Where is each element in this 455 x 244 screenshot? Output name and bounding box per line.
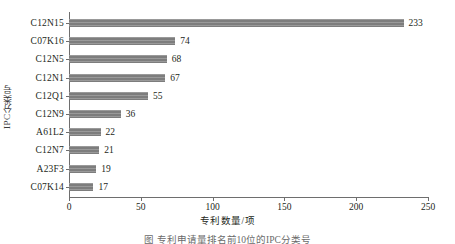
category-label: C07K16 [31,32,64,50]
bar-row: C12N721 [69,141,428,159]
category-label: A23F3 [37,160,64,178]
category-label: C12N7 [36,141,64,159]
x-axis-tick [356,197,357,201]
y-axis-title: IPC分类号 [2,62,18,152]
bar-value-label: 36 [126,105,136,123]
x-axis-tick-label: 150 [277,202,291,212]
x-axis-line [69,197,429,198]
x-axis-tick-label: 0 [67,202,72,212]
chart-figure: IPC分类号 C12N15233C07K1674C12N568C12N167C1… [0,0,455,244]
bar-row: C12N167 [69,69,428,87]
category-label: C07K14 [31,178,64,196]
bar-row: C12N568 [69,50,428,68]
bar-row: C12N15233 [69,14,428,32]
bar-row: A61L222 [69,123,428,141]
category-label: A61L2 [36,123,64,141]
bar-value-label: 68 [172,50,182,68]
bar [69,128,101,136]
bar-value-label: 67 [170,69,180,87]
bar-row: A23F319 [69,160,428,178]
x-axis-tick [141,197,142,201]
bar-value-label: 74 [180,32,190,50]
bar-value-label: 22 [106,123,116,141]
bar [69,92,148,100]
bar-row: C07K1674 [69,32,428,50]
bar-value-label: 19 [101,160,111,178]
bar [69,19,404,27]
bar [69,55,167,63]
x-axis-title: 专利数量/项 [0,213,455,227]
x-axis-tick-label: 50 [136,202,146,212]
bar-row: C12Q155 [69,87,428,105]
bar-value-label: 233 [409,14,423,32]
category-label: C12N9 [36,105,64,123]
x-axis-tick-label: 100 [205,202,219,212]
bar-value-label: 55 [153,87,163,105]
bar-row: C07K1417 [69,178,428,196]
bar [69,165,96,173]
bar [69,146,99,154]
bar-row: C12N936 [69,105,428,123]
x-axis-tick [428,197,429,201]
x-axis-tick [213,197,214,201]
bar [69,37,175,45]
bar [69,110,121,118]
x-axis-tick [284,197,285,201]
category-label: C12N5 [36,50,64,68]
bar [69,183,93,191]
category-label: C12N1 [36,69,64,87]
figure-caption: 图 专利申请量排名前10位的IPC分类号 [0,232,455,244]
x-axis-tick [69,197,70,201]
x-axis-tick-label: 250 [421,202,435,212]
x-axis-tick-label: 200 [349,202,363,212]
bar [69,74,165,82]
category-label: C12N15 [31,14,64,32]
bar-value-label: 21 [104,141,114,159]
plot-area: C12N15233C07K1674C12N568C12N167C12Q155C1… [69,14,428,196]
bar-value-label: 17 [98,178,108,196]
category-label: C12Q1 [36,87,64,105]
